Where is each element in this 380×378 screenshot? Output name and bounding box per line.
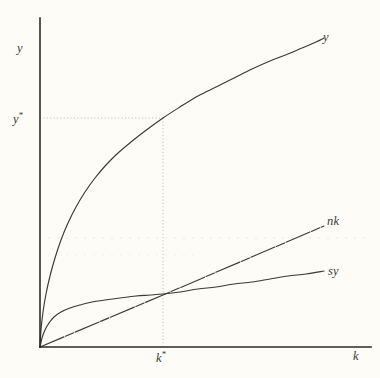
curves-group <box>40 38 324 347</box>
plot-canvas <box>0 0 380 378</box>
curve-label-y: y <box>323 31 329 44</box>
x-axis-label: k <box>353 350 359 363</box>
scan-artifacts-group <box>48 238 372 255</box>
y-star-asterisk: * <box>19 110 24 120</box>
k-star-asterisk: * <box>162 349 167 359</box>
curve-y-production-function <box>40 38 324 347</box>
curve-nk-breakeven-investment <box>40 226 324 347</box>
curve-label-sy: sy <box>328 265 339 278</box>
steady-state-guides-group <box>40 118 163 347</box>
solow-growth-model-figure: y k y* k* y nk sy <box>0 0 380 378</box>
curve-sy-actual-investment <box>40 271 324 347</box>
axes-group <box>40 18 371 347</box>
y-star-label: y* <box>13 111 23 126</box>
k-star-label: k* <box>156 350 166 365</box>
curve-label-nk: nk <box>327 215 339 228</box>
y-axis-label: y <box>17 42 23 55</box>
